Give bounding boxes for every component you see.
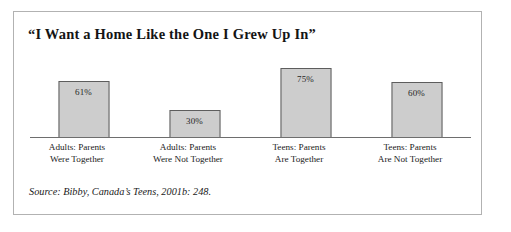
bar-group-3: 75% — [250, 56, 361, 138]
plot-area: 61% 30% 75% 60% — [28, 56, 472, 138]
bar-value-4: 60% — [392, 88, 441, 98]
bar-value-1: 61% — [59, 87, 108, 97]
chart-title: “I Want a Home Like the One I Grew Up In… — [28, 26, 316, 43]
bar-value-2: 30% — [170, 116, 219, 126]
bar-teens-parents-are-together: 75% — [280, 68, 331, 138]
bar-value-3: 75% — [281, 74, 330, 84]
bar-teens-parents-are-not-together: 60% — [391, 82, 442, 138]
x-tick-label-4-line-2: Are Not Together — [340, 154, 480, 166]
x-tick-label-4: Teens: Parents Are Not Together — [340, 142, 480, 165]
bar-group-4: 60% — [361, 56, 472, 138]
x-tick-label-4-line-1: Teens: Parents — [340, 142, 480, 154]
source-note: Source: Bibby, Canada’s Teens, 2001b: 24… — [29, 186, 211, 197]
bar-adults-parents-were-together: 61% — [58, 81, 109, 138]
bar-adults-parents-were-not-together: 30% — [169, 110, 220, 138]
bar-group-1: 61% — [28, 56, 139, 138]
x-axis-line — [30, 137, 471, 138]
bar-group-2: 30% — [139, 56, 250, 138]
bar-chart-figure: “I Want a Home Like the One I Grew Up In… — [0, 0, 511, 232]
